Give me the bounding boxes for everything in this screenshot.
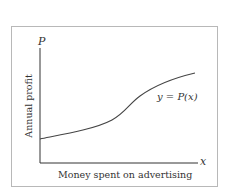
y-axis-symbol: P	[38, 35, 45, 48]
x-axis-symbol: x	[200, 155, 206, 168]
curve-label: y = P(x)	[157, 91, 198, 102]
profit-curve	[40, 73, 195, 139]
x-axis-title: Money spent on advertising	[58, 169, 192, 180]
y-axis-title: Annual profit	[23, 74, 34, 137]
